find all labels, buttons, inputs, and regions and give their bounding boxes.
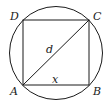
vertex-label-b: B [92, 85, 101, 98]
diagram-canvas: D C A B d x [0, 0, 112, 107]
vertex-label-c: C [93, 10, 102, 23]
diagonal-label-d: d [46, 43, 53, 56]
inscribed-square-diagram: D C A B d x [0, 0, 112, 107]
vertex-label-a: A [9, 85, 18, 98]
vertex-label-d: D [9, 10, 19, 23]
side-label-x: x [52, 73, 59, 86]
